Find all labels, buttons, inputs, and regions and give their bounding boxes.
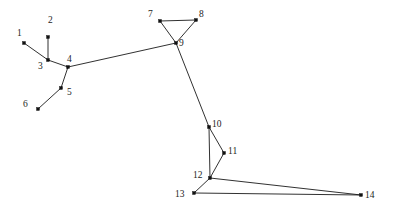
graph-node-12[interactable] [209,177,212,180]
graph-node-label-3: 3 [38,61,43,71]
graph-node-7[interactable] [159,20,162,23]
graph-node-8[interactable] [195,19,198,22]
graph-node-14[interactable] [360,194,363,197]
graph-node-label-9: 9 [179,38,184,48]
graph-node-label-14: 14 [365,190,375,200]
graph-canvas: 1234567891011121314 [0,0,399,211]
graph-node-6[interactable] [37,108,40,111]
graph-node-11[interactable] [223,152,226,155]
graph-node-3[interactable] [47,59,50,62]
graph-edge [194,193,361,195]
graph-edge [24,43,48,60]
graph-edge [176,43,209,127]
graph-edge [160,20,196,21]
graph-edge [38,88,61,109]
graph-node-label-5: 5 [67,87,72,97]
graph-edge [68,43,176,67]
graph-node-label-8: 8 [199,9,204,19]
graph-edge [210,153,224,178]
graph-node-9[interactable] [175,42,178,45]
graph-node-label-11: 11 [228,146,237,156]
graph-node-label-1: 1 [17,28,22,38]
graph-edge [194,178,210,193]
graph-edge [209,127,210,178]
graph-node-label-13: 13 [175,189,185,199]
graph-edge [160,21,176,43]
graph-node-2[interactable] [47,36,50,39]
graph-node-5[interactable] [60,87,63,90]
graph-edge [210,178,361,195]
edges-group [24,20,361,195]
graph-node-label-6: 6 [23,99,28,109]
graph-node-label-7: 7 [148,9,153,19]
graph-edge [61,67,68,88]
graph-node-label-12: 12 [193,170,203,180]
graph-node-label-10: 10 [212,119,222,129]
graph-node-label-2: 2 [48,15,53,25]
graph-node-4[interactable] [67,66,70,69]
graph-edge [48,60,68,67]
graph-edge [209,127,224,153]
graph-node-1[interactable] [23,42,26,45]
graph-node-label-4: 4 [67,54,72,64]
graph-node-13[interactable] [193,192,196,195]
graph-node-10[interactable] [208,126,211,129]
